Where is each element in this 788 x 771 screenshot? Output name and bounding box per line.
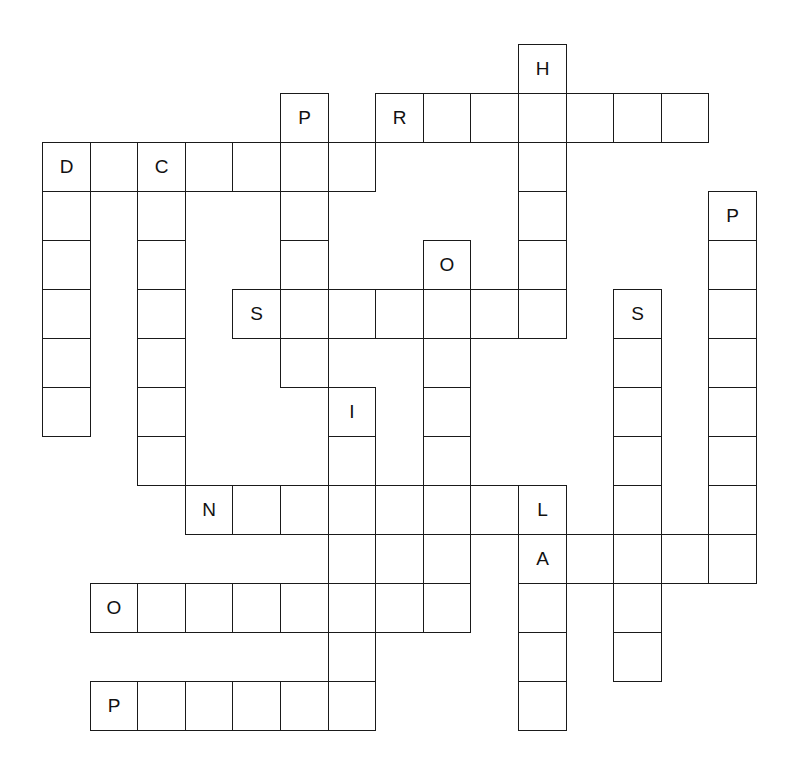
crossword-cell-r3-c2[interactable] bbox=[137, 191, 186, 241]
crossword-cell-r10-c13[interactable] bbox=[661, 534, 709, 584]
crossword-cell-r1-c7[interactable]: R bbox=[375, 93, 424, 143]
crossword-cell-r2-c2[interactable]: C bbox=[137, 142, 186, 192]
crossword-cell-r4-c10[interactable] bbox=[518, 240, 567, 290]
crossword-cell-r13-c6[interactable] bbox=[328, 681, 376, 731]
crossword-cell-r11-c2[interactable] bbox=[137, 583, 186, 633]
crossword-cell-r13-c2[interactable] bbox=[137, 681, 186, 731]
cell-letter: S bbox=[250, 303, 263, 325]
crossword-cell-r10-c8[interactable] bbox=[423, 534, 471, 584]
crossword-cell-r13-c5[interactable] bbox=[280, 681, 329, 731]
crossword-cell-r1-c10[interactable] bbox=[518, 93, 567, 143]
crossword-cell-r5-c5[interactable] bbox=[280, 289, 329, 339]
crossword-cell-r1-c9[interactable] bbox=[470, 93, 519, 143]
crossword-cell-r10-c10[interactable]: A bbox=[518, 534, 567, 584]
crossword-cell-r11-c1[interactable]: O bbox=[90, 583, 138, 633]
cell-letter: P bbox=[108, 695, 121, 717]
cell-letter: P bbox=[298, 107, 311, 129]
crossword-cell-r6-c14[interactable] bbox=[708, 338, 757, 388]
crossword-cell-r9-c14[interactable] bbox=[708, 485, 757, 535]
crossword-cell-r13-c1[interactable]: P bbox=[90, 681, 138, 731]
crossword-cell-r9-c7[interactable] bbox=[375, 485, 424, 535]
crossword-cell-r4-c5[interactable] bbox=[280, 240, 329, 290]
crossword-cell-r11-c8[interactable] bbox=[423, 583, 471, 633]
crossword-cell-r13-c3[interactable] bbox=[185, 681, 233, 731]
crossword-cell-r1-c13[interactable] bbox=[661, 93, 709, 143]
crossword-cell-r5-c7[interactable] bbox=[375, 289, 424, 339]
crossword-cell-r3-c14[interactable]: P bbox=[708, 191, 757, 241]
crossword-cell-r7-c12[interactable] bbox=[613, 387, 662, 437]
crossword-cell-r11-c10[interactable] bbox=[518, 583, 567, 633]
crossword-cell-r12-c10[interactable] bbox=[518, 632, 567, 682]
crossword-cell-r5-c8[interactable] bbox=[423, 289, 471, 339]
crossword-cell-r2-c10[interactable] bbox=[518, 142, 567, 192]
crossword-cell-r3-c0[interactable] bbox=[42, 191, 91, 241]
crossword-cell-r10-c14[interactable] bbox=[708, 534, 757, 584]
crossword-cell-r5-c0[interactable] bbox=[42, 289, 91, 339]
crossword-cell-r6-c8[interactable] bbox=[423, 338, 471, 388]
crossword-cell-r5-c14[interactable] bbox=[708, 289, 757, 339]
crossword-cell-r10-c12[interactable] bbox=[613, 534, 662, 584]
crossword-cell-r11-c7[interactable] bbox=[375, 583, 424, 633]
crossword-cell-r7-c6[interactable]: I bbox=[328, 387, 376, 437]
crossword-cell-r1-c12[interactable] bbox=[613, 93, 662, 143]
crossword-cell-r5-c2[interactable] bbox=[137, 289, 186, 339]
crossword-cell-r2-c3[interactable] bbox=[185, 142, 233, 192]
crossword-cell-r9-c10[interactable]: L bbox=[518, 485, 567, 535]
crossword-cell-r6-c0[interactable] bbox=[42, 338, 91, 388]
crossword-cell-r2-c4[interactable] bbox=[232, 142, 281, 192]
crossword-cell-r2-c5[interactable] bbox=[280, 142, 329, 192]
crossword-cell-r7-c8[interactable] bbox=[423, 387, 471, 437]
crossword-cell-r10-c6[interactable] bbox=[328, 534, 376, 584]
crossword-cell-r5-c4[interactable]: S bbox=[232, 289, 281, 339]
crossword-cell-r9-c6[interactable] bbox=[328, 485, 376, 535]
crossword-cell-r5-c12[interactable]: S bbox=[613, 289, 662, 339]
crossword-cell-r13-c4[interactable] bbox=[232, 681, 281, 731]
crossword-cell-r11-c5[interactable] bbox=[280, 583, 329, 633]
crossword-cell-r1-c11[interactable] bbox=[566, 93, 614, 143]
crossword-cell-r7-c2[interactable] bbox=[137, 387, 186, 437]
cell-letter: P bbox=[726, 205, 739, 227]
crossword-cell-r11-c4[interactable] bbox=[232, 583, 281, 633]
crossword-cell-r9-c8[interactable] bbox=[423, 485, 471, 535]
crossword-cell-r7-c14[interactable] bbox=[708, 387, 757, 437]
crossword-cell-r1-c8[interactable] bbox=[423, 93, 471, 143]
crossword-cell-r5-c10[interactable] bbox=[518, 289, 567, 339]
crossword-cell-r3-c10[interactable] bbox=[518, 191, 567, 241]
crossword-cell-r9-c4[interactable] bbox=[232, 485, 281, 535]
crossword-cell-r4-c2[interactable] bbox=[137, 240, 186, 290]
crossword-cell-r9-c12[interactable] bbox=[613, 485, 662, 535]
crossword-cell-r9-c5[interactable] bbox=[280, 485, 329, 535]
crossword-cell-r6-c2[interactable] bbox=[137, 338, 186, 388]
crossword-cell-r11-c12[interactable] bbox=[613, 583, 662, 633]
crossword-cell-r9-c9[interactable] bbox=[470, 485, 519, 535]
crossword-cell-r4-c8[interactable]: O bbox=[423, 240, 471, 290]
crossword-cell-r5-c9[interactable] bbox=[470, 289, 519, 339]
crossword-cell-r11-c3[interactable] bbox=[185, 583, 233, 633]
crossword-cell-r1-c5[interactable]: P bbox=[280, 93, 329, 143]
crossword-cell-r2-c1[interactable] bbox=[90, 142, 138, 192]
crossword-cell-r9-c3[interactable]: N bbox=[185, 485, 233, 535]
crossword-cell-r13-c10[interactable] bbox=[518, 681, 567, 731]
crossword-cell-r6-c12[interactable] bbox=[613, 338, 662, 388]
crossword-cell-r12-c12[interactable] bbox=[613, 632, 662, 682]
crossword-cell-r4-c14[interactable] bbox=[708, 240, 757, 290]
crossword-cell-r8-c14[interactable] bbox=[708, 436, 757, 486]
crossword-cell-r8-c6[interactable] bbox=[328, 436, 376, 486]
cell-letter: R bbox=[393, 107, 407, 129]
crossword-cell-r4-c0[interactable] bbox=[42, 240, 91, 290]
cell-letter: O bbox=[107, 597, 122, 619]
crossword-cell-r10-c11[interactable] bbox=[566, 534, 614, 584]
crossword-cell-r6-c5[interactable] bbox=[280, 338, 329, 388]
crossword-cell-r12-c6[interactable] bbox=[328, 632, 376, 682]
crossword-cell-r8-c2[interactable] bbox=[137, 436, 186, 486]
crossword-cell-r8-c8[interactable] bbox=[423, 436, 471, 486]
crossword-cell-r0-c10[interactable]: H bbox=[518, 44, 567, 94]
crossword-cell-r11-c6[interactable] bbox=[328, 583, 376, 633]
crossword-cell-r7-c0[interactable] bbox=[42, 387, 91, 437]
crossword-cell-r8-c12[interactable] bbox=[613, 436, 662, 486]
crossword-cell-r3-c5[interactable] bbox=[280, 191, 329, 241]
crossword-cell-r2-c6[interactable] bbox=[328, 142, 376, 192]
crossword-cell-r2-c0[interactable]: D bbox=[42, 142, 91, 192]
crossword-cell-r5-c6[interactable] bbox=[328, 289, 376, 339]
cell-letter: H bbox=[536, 58, 550, 80]
